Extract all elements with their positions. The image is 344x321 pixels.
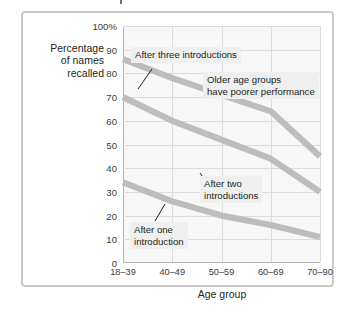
chart-figure: Percentage of names recalled 01020304050… (0, 0, 344, 321)
y-axis-tick-label: 100% (92, 21, 117, 32)
scan-artifact-mark (120, 0, 122, 4)
y-axis-tick-label: 90 (106, 44, 117, 55)
y-axis-tick-label: 40 (106, 163, 117, 174)
annotation-older-age-groups: Older age groups have poorer performance (203, 72, 319, 99)
gridline-vertical (320, 26, 321, 263)
annotation-after-two-introductions: After two introductions (200, 176, 262, 203)
annotation-after-one-introduction: After one introduction (130, 222, 188, 249)
x-axis-tick-label: 70–90 (307, 267, 333, 277)
y-axis-tick-label: 30 (106, 186, 117, 197)
y-axis-tick-label: 80 (106, 68, 117, 79)
y-axis-tick-label: 20 (106, 210, 117, 221)
y-axis-tick-label: 10 (106, 234, 117, 245)
x-axis-tick-label: 18–39 (110, 267, 136, 277)
y-axis-tick-label: 70 (106, 92, 117, 103)
leader-line-after-one (155, 204, 165, 221)
x-axis-tick-label: 60–69 (258, 267, 284, 277)
x-axis-title: Age group (123, 288, 321, 300)
y-axis-tick-label: 60 (106, 115, 117, 126)
y-axis-title: Percentage of names recalled (26, 42, 104, 79)
leader-line-after-three (138, 69, 152, 89)
x-axis-tick-label: 50–59 (209, 267, 235, 277)
x-axis-tick-label: 40–49 (159, 267, 185, 277)
annotation-after-three-introductions: After three introductions (131, 47, 241, 63)
y-axis-tick-label: 50 (106, 139, 117, 150)
